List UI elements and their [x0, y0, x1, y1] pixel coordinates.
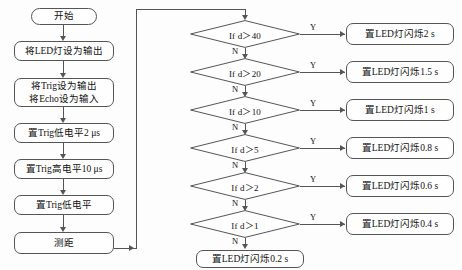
- loop-arrow-into-riser: [129, 245, 134, 251]
- flowchart-canvas: 开始 将LED灯设为输出 将Trig设为输出 将Echo设为输入 置Trig低电…: [0, 0, 462, 270]
- node-trig-low[interactable]: 置Trig低电平: [14, 195, 114, 215]
- yes-line-2: [300, 72, 345, 73]
- node-start[interactable]: 开始: [31, 8, 97, 25]
- node-blink-0_8s-label: 置LED灯闪烁0.8 s: [362, 143, 438, 154]
- yes-label-2: Y: [310, 60, 316, 70]
- decision-d-gt-1[interactable]: If d＞1: [190, 210, 300, 238]
- yes-label-5: Y: [310, 174, 316, 184]
- yes-line-3: [300, 110, 345, 111]
- node-measure-label: 测距: [54, 238, 74, 249]
- yes-line-1: [300, 34, 345, 35]
- node-blink-2s-label: 置LED灯闪烁2 s: [365, 29, 434, 40]
- node-blink-0_6s-label: 置LED灯闪烁0.6 s: [362, 181, 438, 192]
- node-trig-echo-line2: 将Echo设为输入: [29, 93, 99, 106]
- node-blink-1_5s[interactable]: 置LED灯闪烁1.5 s: [346, 61, 454, 83]
- no-label-4: N: [232, 160, 238, 170]
- node-blink-2s[interactable]: 置LED灯闪烁2 s: [346, 23, 454, 45]
- yes-arrow-6: [340, 221, 345, 227]
- no-label-6: N: [232, 236, 238, 246]
- node-trig-low-2us[interactable]: 置Trig低电平2 μs: [14, 123, 114, 143]
- no-label-1: N: [232, 46, 238, 56]
- yes-line-6: [300, 224, 345, 225]
- yes-label-4: Y: [310, 136, 316, 146]
- decision-d-gt-2-label: If d＞2: [231, 181, 258, 194]
- node-blink-0_4s-label: 置LED灯闪烁0.4 s: [362, 219, 438, 230]
- decision-d-gt-1-label: If d＞1: [231, 219, 258, 232]
- node-blink-1s-label: 置LED灯闪烁1 s: [365, 105, 434, 116]
- node-trig-low-2us-label: 置Trig低电平2 μs: [28, 128, 100, 139]
- node-led-output[interactable]: 将LED灯设为输出: [14, 41, 114, 61]
- node-blink-0_2s-label: 置LED灯闪烁0.2 s: [212, 254, 288, 265]
- node-trig-echo-config[interactable]: 将Trig设为输出 将Echo设为输入: [14, 78, 114, 107]
- yes-line-4: [300, 148, 345, 149]
- yes-arrow-5: [340, 183, 345, 189]
- yes-line-5: [300, 186, 345, 187]
- decision-d-gt-40-label: If d＞40: [229, 29, 261, 42]
- yes-label-1: Y: [310, 22, 316, 32]
- decision-d-gt-20[interactable]: If d＞20: [190, 58, 300, 86]
- yes-label-3: Y: [310, 98, 316, 108]
- no-label-5: N: [232, 198, 238, 208]
- yes-arrow-1: [340, 31, 345, 37]
- node-start-label: 开始: [54, 11, 74, 22]
- node-trig-high-10us[interactable]: 置Trig高电平10 μs: [14, 159, 114, 179]
- decision-d-gt-40[interactable]: If d＞40: [190, 20, 300, 48]
- decision-d-gt-5[interactable]: If d＞5: [190, 134, 300, 162]
- loop-top-segment: [136, 9, 245, 10]
- decision-d-gt-20-label: If d＞20: [229, 67, 261, 80]
- node-measure[interactable]: 测距: [14, 232, 114, 254]
- no-label-2: N: [232, 84, 238, 94]
- yes-arrow-4: [340, 145, 345, 151]
- node-trig-echo-line1: 将Trig设为输出: [31, 80, 97, 93]
- decision-d-gt-10[interactable]: If d＞10: [190, 96, 300, 124]
- node-blink-0_8s[interactable]: 置LED灯闪烁0.8 s: [346, 137, 454, 159]
- no-arrow-6: [242, 244, 248, 249]
- node-blink-0_2s[interactable]: 置LED灯闪烁0.2 s: [196, 250, 304, 268]
- decision-d-gt-10-label: If d＞10: [229, 105, 261, 118]
- yes-arrow-2: [340, 69, 345, 75]
- decision-d-gt-5-label: If d＞5: [231, 143, 258, 156]
- node-led-output-label: 将LED灯设为输出: [25, 46, 103, 57]
- node-trig-low-label: 置Trig低电平: [36, 200, 92, 211]
- node-trig-high-10us-label: 置Trig高电平10 μs: [26, 164, 103, 175]
- node-blink-0_4s[interactable]: 置LED灯闪烁0.4 s: [346, 213, 454, 235]
- yes-label-6: Y: [310, 212, 316, 222]
- loop-vertical-riser: [136, 9, 137, 249]
- decision-d-gt-2[interactable]: If d＞2: [190, 172, 300, 200]
- node-blink-1s[interactable]: 置LED灯闪烁1 s: [346, 99, 454, 121]
- node-blink-1_5s-label: 置LED灯闪烁1.5 s: [362, 67, 438, 78]
- no-label-3: N: [232, 122, 238, 132]
- node-blink-0_6s[interactable]: 置LED灯闪烁0.6 s: [346, 175, 454, 197]
- yes-arrow-3: [340, 107, 345, 113]
